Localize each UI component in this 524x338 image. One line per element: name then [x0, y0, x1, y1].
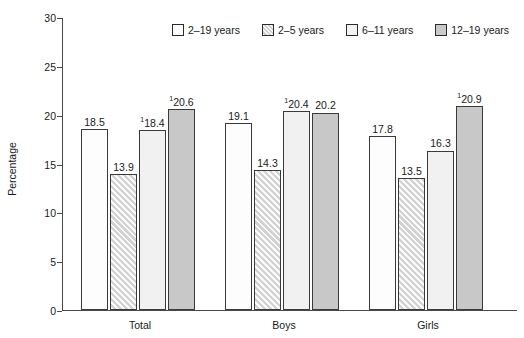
bar-value-label: 20.2 — [315, 100, 335, 111]
y-tick-mark — [57, 262, 62, 263]
x-tick-label: Girls — [417, 320, 439, 331]
bar: 20.2 — [312, 113, 339, 310]
bar-groups: 18.513.9118.4120.6Total19.114.3120.420.2… — [63, 18, 517, 310]
footnote-marker: 1 — [140, 116, 144, 123]
bar-value-label: 14.3 — [257, 158, 277, 169]
bar-group-total: 18.513.9118.4120.6Total — [81, 18, 199, 310]
x-tick-label: Boys — [272, 320, 295, 331]
bar-value-label: 16.3 — [430, 138, 450, 149]
bar: 14.3 — [254, 170, 281, 310]
y-tick-mark — [57, 67, 62, 68]
x-tick-label: Total — [129, 320, 151, 331]
bar: 120.4 — [283, 111, 310, 310]
y-tick-label: 15 — [34, 159, 56, 170]
plot-area: 051015202530 18.513.9118.4120.6Total19.1… — [62, 18, 517, 311]
bar: 16.3 — [427, 151, 454, 310]
y-tick-mark — [57, 213, 62, 214]
bar-value-label: 13.9 — [113, 162, 133, 173]
bar-value-label: 19.1 — [228, 111, 248, 122]
y-tick-label: 5 — [34, 257, 56, 268]
y-tick-label: 20 — [34, 110, 56, 121]
y-tick-mark — [57, 311, 62, 312]
x-axis-line — [62, 310, 517, 311]
bar-value-label: 17.8 — [372, 124, 392, 135]
y-tick-label: 10 — [34, 208, 56, 219]
y-tick-mark — [57, 116, 62, 117]
bar-value-label: 120.4 — [284, 97, 308, 109]
y-tick-label: 25 — [34, 62, 56, 73]
bar: 13.5 — [398, 178, 425, 310]
bar: 18.5 — [81, 129, 108, 310]
y-tick-label: 30 — [34, 13, 56, 24]
y-tick-mark — [57, 18, 62, 19]
bar: 120.9 — [456, 106, 483, 310]
footnote-marker: 1 — [169, 95, 173, 102]
bar: 118.4 — [139, 130, 166, 310]
bar-value-label: 118.4 — [140, 116, 164, 128]
bar-chart: 2–19 years 2–5 years 6–11 years 12–19 ye… — [0, 0, 524, 338]
bar-value-label: 120.9 — [457, 92, 481, 104]
bar-group-girls: 17.813.516.3120.9Girls — [369, 18, 487, 310]
bar: 19.1 — [225, 123, 252, 310]
y-tick-mark — [57, 165, 62, 166]
bar: 120.6 — [168, 109, 195, 310]
bar-value-label: 13.5 — [401, 166, 421, 177]
bar-value-label: 18.5 — [84, 117, 104, 128]
bar: 17.8 — [369, 136, 396, 310]
bar: 13.9 — [110, 174, 137, 310]
y-tick-label: 0 — [34, 306, 56, 317]
bar-group-boys: 19.114.3120.420.2Boys — [225, 18, 343, 310]
footnote-marker: 1 — [457, 92, 461, 99]
footnote-marker: 1 — [284, 97, 288, 104]
bar-value-label: 120.6 — [169, 95, 193, 107]
y-axis-title: Percentage — [6, 142, 18, 196]
